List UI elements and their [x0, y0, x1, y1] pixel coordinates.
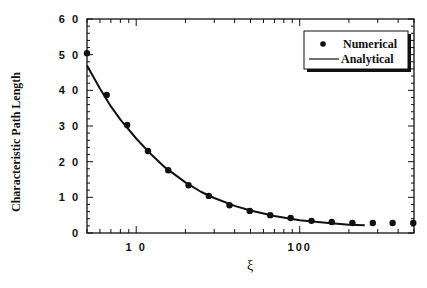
data-point	[165, 167, 171, 173]
y-tick-label: 0	[72, 227, 80, 239]
data-point	[329, 219, 335, 225]
y-tick-label: 2 0	[59, 156, 80, 168]
data-point	[267, 212, 273, 218]
legend-label-analytical: Analytical	[341, 52, 394, 66]
data-point	[84, 50, 90, 56]
y-tick-label: 1 0	[59, 191, 80, 203]
data-point	[370, 220, 376, 226]
x-axis-label: ξ	[247, 258, 253, 273]
y-tick-label: 5 0	[59, 49, 80, 61]
legend: Numerical Analytical	[304, 31, 411, 72]
y-axis-label: Characteristic Path Length	[9, 72, 23, 212]
chart: 01 02 03 04 05 06 0 1 0100 Characteristi…	[0, 0, 427, 288]
numerical-points	[84, 50, 417, 226]
data-point	[349, 220, 355, 226]
x-tick-label: 1 0	[126, 241, 147, 253]
data-point	[287, 215, 293, 221]
data-point	[104, 92, 110, 98]
legend-label-numerical: Numerical	[343, 37, 398, 51]
data-point	[145, 148, 151, 154]
y-tick-label: 3 0	[59, 120, 80, 132]
y-tick-label: 6 0	[59, 13, 80, 25]
data-point	[410, 220, 416, 226]
data-point	[389, 220, 395, 226]
data-point	[308, 218, 314, 224]
data-point	[206, 193, 212, 199]
analytical-curve	[87, 65, 365, 225]
data-point	[247, 208, 253, 214]
data-point	[124, 122, 130, 128]
data-point	[226, 202, 232, 208]
x-tick-label: 100	[288, 241, 312, 253]
data-point	[185, 182, 191, 188]
legend-dot-icon	[320, 41, 326, 47]
y-tick-label: 4 0	[59, 84, 80, 96]
analytical-line	[87, 65, 365, 225]
